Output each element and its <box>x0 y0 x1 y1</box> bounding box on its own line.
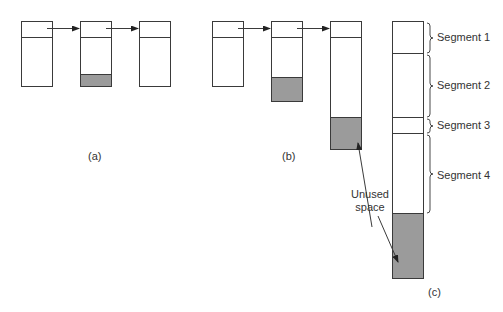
brace-icon <box>427 119 433 133</box>
unused-space-b2 <box>272 78 303 102</box>
brace-icon <box>427 135 433 213</box>
segment-2-label: Segment 2 <box>437 80 490 91</box>
part-a-blocks <box>22 22 171 87</box>
unused-space-label-line1: Unused <box>350 189 390 200</box>
unused-space-label-line2: space <box>350 202 390 213</box>
part-b-label: (b) <box>282 151 295 162</box>
part-b-blocks <box>213 22 362 150</box>
segment-4-label: Segment 4 <box>437 170 490 181</box>
brace-icon <box>427 23 433 53</box>
part-a-label: (a) <box>88 151 101 162</box>
part-c-blocks <box>393 22 434 279</box>
diagram-canvas <box>0 0 503 312</box>
unused-space-b3 <box>331 118 362 150</box>
block-a1 <box>22 22 53 87</box>
block-a3 <box>140 22 171 87</box>
part-c-label: (c) <box>428 287 441 298</box>
unused-space-a2 <box>81 75 112 87</box>
brace-icon <box>427 55 433 117</box>
block-b1 <box>213 22 244 87</box>
segment-1-label: Segment 1 <box>437 32 490 43</box>
segment-3-label: Segment 3 <box>437 120 490 131</box>
unused-space-c <box>393 214 424 279</box>
arrow-icon <box>358 143 372 227</box>
